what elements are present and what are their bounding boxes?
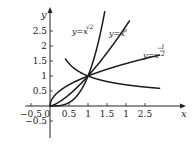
power-functions-chart: −0.500.511.512.52.521.510.5−0.5 y x y=x … bbox=[0, 0, 193, 150]
x-tick-label: 1.5 bbox=[100, 109, 115, 119]
svg-text:2: 2 bbox=[160, 50, 165, 57]
y-axis-label: y bbox=[40, 9, 47, 20]
y-tick-label: 1 bbox=[41, 71, 47, 81]
x-tick-label: 2.5 bbox=[138, 109, 153, 119]
curve-label-neg-half: y=x − 1 2 bbox=[142, 43, 165, 60]
svg-text:y=x: y=x bbox=[142, 51, 159, 60]
curve-y-x-1-2- bbox=[65, 59, 160, 89]
y-tick-label: 0.5 bbox=[33, 86, 48, 96]
svg-text:π: π bbox=[122, 26, 128, 33]
x-axis-label: x bbox=[181, 108, 187, 119]
x-tick-label: 1 bbox=[123, 109, 129, 119]
y-axis-arrow-icon bbox=[48, 7, 53, 13]
x-tick-label: 0.5 bbox=[62, 109, 77, 119]
x-tick-label: 1 bbox=[85, 109, 91, 119]
y-tick-label: 2.5 bbox=[33, 26, 48, 36]
y-tick-label: 2 bbox=[41, 41, 47, 51]
svg-text:1: 1 bbox=[161, 43, 165, 50]
y-tick-label: −0.5 bbox=[25, 116, 47, 126]
curve-label-sqrt2: y=x √2 bbox=[71, 23, 94, 36]
y-tick-label: 1.5 bbox=[33, 56, 48, 66]
svg-text:√2: √2 bbox=[86, 23, 94, 30]
curve-label-pi: y=x π bbox=[108, 26, 128, 38]
